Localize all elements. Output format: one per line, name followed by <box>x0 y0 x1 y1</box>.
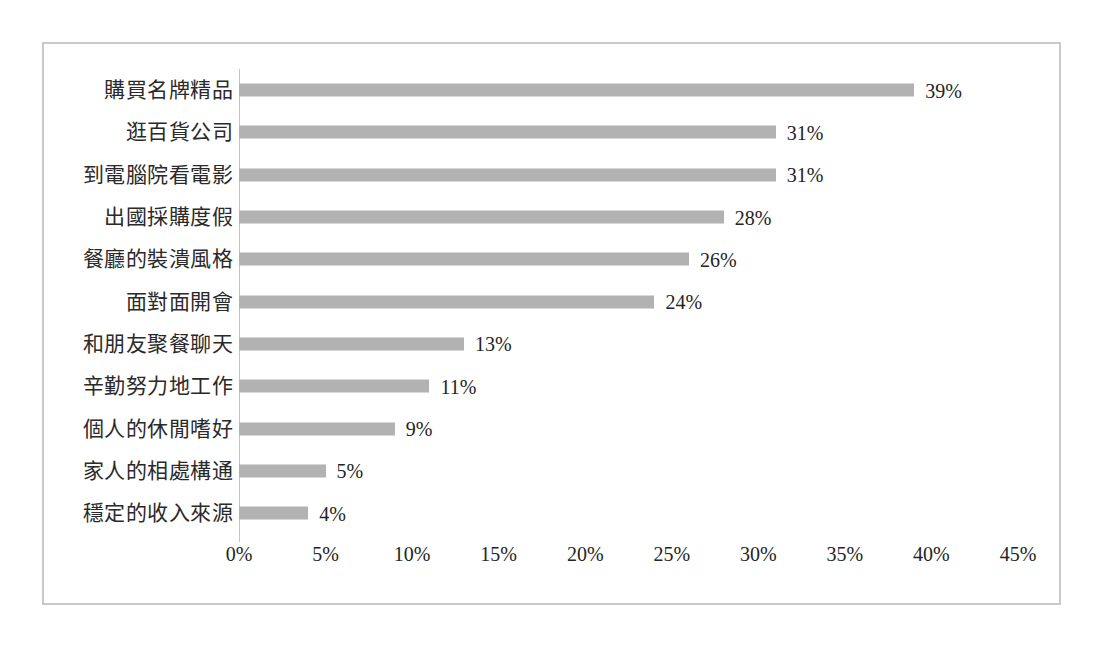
bar-row: 穩定的收入來源4% <box>44 492 1059 534</box>
category-label: 穩定的收入來源 <box>83 503 234 524</box>
bar[interactable] <box>239 464 326 477</box>
bar-data-label: 11% <box>440 376 476 396</box>
x-axis-tick-label: 35% <box>827 544 864 564</box>
bar-row: 餐廳的裝潰風格26% <box>44 238 1059 280</box>
x-axis-tick-label: 40% <box>913 544 950 564</box>
chart-frame: 購買名牌精品39%逛百貨公司31%到電腦院看電影31%出國採購度假28%餐廳的裝… <box>42 42 1061 605</box>
bar-row: 辛勤努力地工作11% <box>44 365 1059 407</box>
bar-row: 購買名牌精品39% <box>44 69 1059 111</box>
bar-and-label: 5% <box>239 464 363 477</box>
bar[interactable] <box>239 507 308 520</box>
bar-row: 出國採購度假28% <box>44 196 1059 238</box>
category-label: 逛百貨公司 <box>126 122 234 143</box>
x-axis-tick-label: 30% <box>740 544 777 564</box>
bar-row: 逛百貨公司31% <box>44 111 1059 153</box>
category-label: 到電腦院看電影 <box>83 164 234 185</box>
bar-and-label: 26% <box>239 253 737 266</box>
bar-row: 個人的休閒嗜好9% <box>44 407 1059 449</box>
bar[interactable] <box>239 422 395 435</box>
bar-row: 面對面開會24% <box>44 281 1059 323</box>
bar[interactable] <box>239 337 464 350</box>
category-label: 個人的休閒嗜好 <box>83 418 234 439</box>
category-label: 辛勤努力地工作 <box>83 376 234 397</box>
bar[interactable] <box>239 253 689 266</box>
x-axis-tick-label: 25% <box>653 544 690 564</box>
category-label: 出國採購度假 <box>104 207 233 228</box>
bar-row: 和朋友聚餐聊天13% <box>44 323 1059 365</box>
bar-and-label: 9% <box>239 422 432 435</box>
bar[interactable] <box>239 126 776 139</box>
category-label: 購買名牌精品 <box>104 80 233 101</box>
bar-data-label: 9% <box>406 419 433 439</box>
bar-and-label: 13% <box>239 337 512 350</box>
bar-and-label: 39% <box>239 84 962 97</box>
x-axis-tick-label: 0% <box>226 544 253 564</box>
bar-data-label: 28% <box>735 207 772 227</box>
category-label: 家人的相處構通 <box>83 460 234 481</box>
bar[interactable] <box>239 168 776 181</box>
bar-and-label: 28% <box>239 211 771 224</box>
bar-and-label: 24% <box>239 295 702 308</box>
bar[interactable] <box>239 84 914 97</box>
bar-data-label: 31% <box>787 165 824 185</box>
bar-data-label: 24% <box>665 292 702 312</box>
x-axis-tick-label: 10% <box>394 544 431 564</box>
x-axis-tick-label: 5% <box>312 544 339 564</box>
category-label: 和朋友聚餐聊天 <box>83 333 234 354</box>
bar-data-label: 4% <box>319 503 346 523</box>
bar[interactable] <box>239 295 654 308</box>
x-axis-tick-label: 20% <box>567 544 604 564</box>
x-axis-tick-label: 15% <box>480 544 517 564</box>
bar-data-label: 5% <box>337 461 364 481</box>
bar-data-label: 26% <box>700 249 737 269</box>
bar-row: 到電腦院看電影31% <box>44 154 1059 196</box>
x-axis-tick-labels: 0%5%10%15%20%25%30%35%40%45% <box>239 544 1018 584</box>
bar-data-label: 39% <box>925 80 962 100</box>
bar-row: 家人的相處構通5% <box>44 450 1059 492</box>
bar[interactable] <box>239 380 429 393</box>
bar-data-label: 31% <box>787 122 824 142</box>
bar-and-label: 4% <box>239 507 346 520</box>
bar-data-label: 13% <box>475 334 512 354</box>
bar-and-label: 31% <box>239 126 823 139</box>
bar[interactable] <box>239 211 724 224</box>
bar-and-label: 11% <box>239 380 476 393</box>
x-axis-tick-label: 45% <box>1000 544 1037 564</box>
bar-and-label: 31% <box>239 168 823 181</box>
plot-area: 購買名牌精品39%逛百貨公司31%到電腦院看電影31%出國採購度假28%餐廳的裝… <box>44 44 1059 603</box>
category-label: 餐廳的裝潰風格 <box>83 249 234 270</box>
category-label: 面對面開會 <box>126 291 234 312</box>
